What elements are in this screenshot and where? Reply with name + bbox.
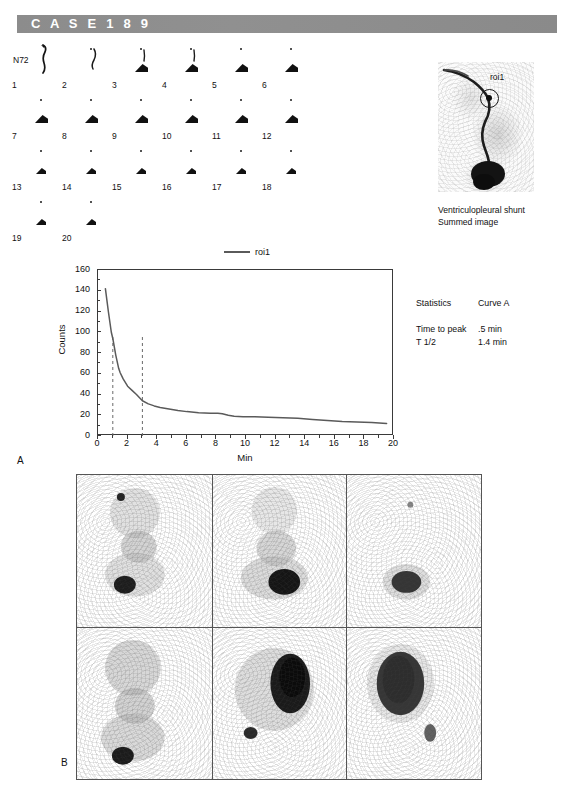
tracer-dot bbox=[290, 99, 292, 101]
frame-cell-10[interactable]: 10 bbox=[162, 95, 211, 141]
frame-cell-9[interactable]: 9 bbox=[112, 95, 161, 141]
legend-label-roi1: roi1 bbox=[255, 247, 270, 257]
frame-number: 11 bbox=[212, 132, 221, 141]
tracer-dot bbox=[240, 99, 242, 101]
tracer-accumulation bbox=[235, 115, 248, 123]
chart-x-tick-minor bbox=[112, 435, 113, 438]
statistics-curve-name: Curve A bbox=[478, 297, 538, 310]
chart-x-tick-label: 20 bbox=[383, 439, 403, 448]
tracer-dot bbox=[290, 48, 292, 50]
frame-cell-15[interactable]: 15 bbox=[112, 146, 161, 192]
chart-y-axis-label: Counts bbox=[56, 305, 67, 375]
image-noise-texture bbox=[213, 628, 347, 779]
chart-plot-area bbox=[97, 269, 393, 435]
caption-line-shunt-type: Ventriculopleural shunt bbox=[438, 205, 571, 217]
tracer-accumulation bbox=[36, 219, 46, 225]
chart-y-tick-minor bbox=[97, 383, 100, 384]
frame-scintigram-2 bbox=[77, 44, 111, 84]
scan-image-cell bbox=[212, 627, 347, 779]
image-noise-texture bbox=[77, 628, 212, 779]
frame-cell-2[interactable]: 2 bbox=[62, 44, 111, 90]
statistics-row: Time to peak .5 min bbox=[416, 323, 566, 336]
tracer-accumulation bbox=[235, 64, 248, 72]
chart-y-tick-mark bbox=[97, 394, 101, 395]
chart-y-tick-minor bbox=[97, 404, 100, 405]
tracer-dot bbox=[190, 150, 192, 152]
chart-x-tick-label: 16 bbox=[324, 439, 344, 448]
chart-y-tick-minor bbox=[97, 321, 100, 322]
frame-scintigram-18 bbox=[277, 146, 311, 186]
frame-cell-6[interactable]: 6 bbox=[262, 44, 311, 90]
tracer-accumulation bbox=[36, 168, 46, 174]
tracer-accumulation bbox=[135, 115, 148, 123]
summed-image-caption: Ventriculopleural shunt Summed image bbox=[438, 205, 571, 228]
chart-x-tick-mark bbox=[97, 435, 98, 439]
shunt-tract-overlay bbox=[438, 62, 534, 192]
frame-number: 10 bbox=[162, 132, 171, 141]
chart-y-tick-minor bbox=[97, 279, 100, 280]
shunt-tract-frame bbox=[82, 44, 102, 74]
legend-swatch-roi1 bbox=[224, 251, 250, 253]
chart-x-tick-label: 18 bbox=[353, 439, 373, 448]
tracer-dot bbox=[140, 99, 142, 101]
frame-scintigram-20 bbox=[77, 197, 111, 237]
chart-x-axis-label: Min bbox=[197, 452, 293, 463]
chart-x-tick-minor bbox=[260, 435, 261, 438]
dynamic-frame-grid: N721234567891011121314151617181920 bbox=[12, 44, 312, 244]
chart-y-tick-mark bbox=[97, 311, 101, 312]
frame-scintigram-7 bbox=[27, 95, 61, 135]
frame-cell-12[interactable]: 12 bbox=[262, 95, 311, 141]
stat-value-time-to-peak: .5 min bbox=[478, 323, 538, 336]
frame-cell-11[interactable]: 11 bbox=[212, 95, 261, 141]
frame-scintigram-13 bbox=[27, 146, 61, 186]
chart-x-tick-mark bbox=[245, 435, 246, 439]
scan-image-cell bbox=[212, 475, 347, 627]
tracer-accumulation bbox=[85, 115, 98, 123]
chart-y-tick-label: 80 bbox=[66, 348, 90, 357]
image-noise-texture bbox=[347, 628, 481, 779]
chart-x-tick-label: 12 bbox=[265, 439, 285, 448]
chart-y-tick-label: 100 bbox=[66, 327, 90, 336]
frame-number: 3 bbox=[112, 81, 117, 90]
chart-x-tick-label: 0 bbox=[87, 439, 107, 448]
frame-cell-1[interactable]: N721 bbox=[12, 44, 61, 90]
frame-number: 2 bbox=[62, 81, 67, 90]
frame-cell-14[interactable]: 14 bbox=[62, 146, 111, 192]
frame-cell-20[interactable]: 20 bbox=[62, 197, 111, 243]
frame-scintigram-19 bbox=[27, 197, 61, 237]
frame-cell-18[interactable]: 18 bbox=[262, 146, 311, 192]
tracer-dot bbox=[290, 150, 292, 152]
chart-x-tick-minor bbox=[141, 435, 142, 438]
tracer-dot bbox=[90, 201, 92, 203]
panel-label-a: A bbox=[17, 455, 24, 466]
page-title: C A S E 1 8 9 bbox=[31, 16, 151, 32]
frame-cell-5[interactable]: 5 bbox=[212, 44, 261, 90]
chart-y-tick-minor bbox=[97, 362, 100, 363]
chart-y-tick-label: 60 bbox=[66, 368, 90, 377]
frame-cell-13[interactable]: 13 bbox=[12, 146, 61, 192]
frame-cell-7[interactable]: 7 bbox=[12, 95, 61, 141]
chart-legend: roi1 bbox=[224, 246, 270, 258]
chart-x-tick-minor bbox=[289, 435, 290, 438]
chart-y-tick-mark bbox=[97, 331, 101, 332]
scan-image-cell bbox=[346, 627, 481, 779]
chart-y-tick-minor bbox=[97, 425, 100, 426]
chart-y-tick-label: 120 bbox=[66, 306, 90, 315]
chart-series-roi1 bbox=[105, 289, 386, 424]
frame-number: 14 bbox=[62, 183, 71, 192]
frame-cell-8[interactable]: 8 bbox=[62, 95, 111, 141]
statistics-row: T 1/2 1.4 min bbox=[416, 336, 566, 349]
frame-cell-17[interactable]: 17 bbox=[212, 146, 261, 192]
tracer-accumulation bbox=[286, 168, 296, 174]
roi1-region-marker[interactable] bbox=[480, 89, 499, 108]
frame-cell-3[interactable]: 3 bbox=[112, 44, 161, 90]
frame-scintigram-11 bbox=[227, 95, 261, 135]
chart-y-tick-mark bbox=[97, 373, 101, 374]
frame-number: 15 bbox=[112, 183, 121, 192]
frame-scintigram-16 bbox=[177, 146, 211, 186]
frame-cell-16[interactable]: 16 bbox=[162, 146, 211, 192]
tracer-dot bbox=[240, 150, 242, 152]
frame-cell-19[interactable]: 19 bbox=[12, 197, 61, 243]
chart-x-tick-label: 14 bbox=[294, 439, 314, 448]
frame-cell-4[interactable]: 4 bbox=[162, 44, 211, 90]
